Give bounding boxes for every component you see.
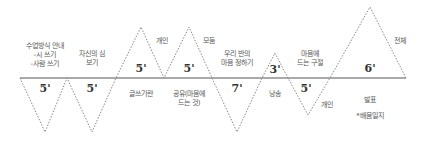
duration-4: 5': [183, 62, 194, 75]
group-label-whole: 전체: [394, 37, 406, 46]
activity-label-3: 글쓰기란: [129, 90, 153, 99]
duration-7: 5': [300, 82, 311, 95]
activity-label-5: 우리 반의 마음 정하기: [221, 50, 253, 68]
duration-1: 5': [39, 82, 50, 95]
activity-label-1: 수업방식 안내 -시 쓰기 -사람 쓰기: [26, 42, 64, 69]
duration-8: 6': [364, 62, 375, 75]
activity-label-7: 마음에 드는 구절: [297, 50, 323, 68]
duration-6: 3': [269, 63, 280, 76]
duration-2: 5': [86, 82, 97, 95]
activity-label-2: 자신의 심 보기: [79, 50, 105, 68]
activity-label-4: 공유(마음에 드는 것): [173, 90, 206, 108]
group-label-individual-2: 개인: [321, 101, 333, 110]
group-label-individual-1: 개인: [156, 37, 168, 46]
duration-3: 5': [135, 62, 146, 75]
activity-label-8: 발표 *배움일지: [356, 92, 384, 124]
activity-label-6: 낭송: [269, 90, 281, 99]
zigzag-path: [20, 7, 406, 132]
duration-5: 7': [231, 82, 242, 95]
group-label-group: 모둠: [203, 37, 215, 46]
